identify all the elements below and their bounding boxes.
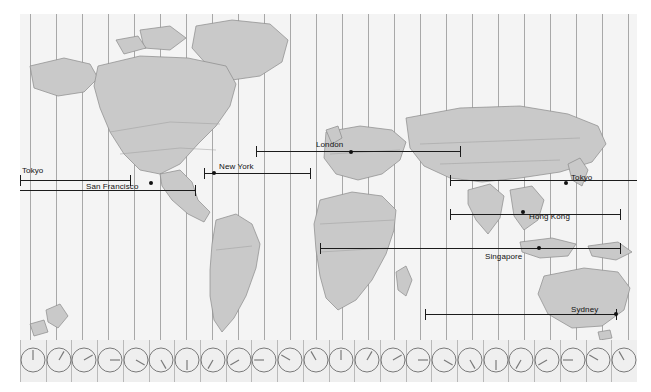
span-endpoint-tick	[450, 209, 451, 220]
hour-clock[interactable]	[20, 346, 47, 374]
span-endpoint-tick	[450, 175, 451, 186]
city-marker-dot[interactable]	[212, 171, 216, 175]
span-endpoint-tick	[310, 168, 311, 179]
hour-clock[interactable]	[610, 346, 637, 374]
span-endpoint-tick	[620, 243, 621, 254]
city-marker-dot[interactable]	[537, 246, 541, 250]
time-span-line	[320, 248, 620, 249]
city-label: Tokyo	[22, 166, 43, 175]
hour-clock[interactable]	[584, 346, 612, 374]
span-endpoint-tick	[620, 209, 621, 220]
hour-clock[interactable]	[533, 346, 561, 374]
hour-clock[interactable]	[147, 346, 175, 374]
span-endpoint-tick	[460, 146, 461, 157]
hour-clock[interactable]	[507, 346, 535, 374]
world-map[interactable]: TokyoSan FranciscoNew YorkLondonTokyoHon…	[20, 14, 637, 340]
hour-clock[interactable]	[482, 346, 510, 374]
time-span-line	[20, 180, 130, 181]
hour-clock[interactable]	[559, 346, 587, 374]
hour-clock[interactable]	[70, 346, 98, 374]
city-marker-dot[interactable]	[614, 312, 618, 316]
hour-clock[interactable]	[250, 346, 278, 374]
city-marker-dot[interactable]	[564, 181, 568, 185]
span-endpoint-tick	[195, 185, 196, 196]
hour-clock[interactable]	[122, 346, 150, 374]
timezone-map-screen: TokyoSan FranciscoNew YorkLondonTokyoHon…	[0, 0, 651, 392]
time-span-line	[450, 180, 637, 181]
hour-clock[interactable]	[327, 346, 355, 374]
city-marker-dot[interactable]	[521, 210, 525, 214]
city-marker-dot[interactable]	[149, 181, 153, 185]
hour-clock[interactable]	[225, 346, 253, 374]
hour-clock[interactable]	[173, 346, 201, 374]
hour-clock[interactable]	[379, 346, 407, 374]
span-endpoint-tick	[204, 168, 205, 179]
hour-clock[interactable]	[45, 346, 73, 374]
hour-clock[interactable]	[302, 346, 330, 374]
time-span-line	[256, 151, 460, 152]
span-endpoint-tick	[256, 146, 257, 157]
span-endpoint-tick	[425, 309, 426, 320]
city-label: Tokyo	[571, 173, 592, 182]
hour-clock[interactable]	[404, 346, 432, 374]
city-label: New York	[219, 162, 254, 171]
span-endpoint-tick	[20, 175, 21, 186]
hour-clock[interactable]	[430, 346, 458, 374]
span-endpoint-tick	[320, 243, 321, 254]
hour-clock[interactable]	[96, 346, 124, 374]
city-label: Sydney	[571, 305, 598, 314]
hour-clock[interactable]	[353, 346, 381, 374]
hour-clock[interactable]	[199, 346, 227, 374]
hour-clock-strip[interactable]	[20, 340, 637, 382]
hour-clock[interactable]	[276, 346, 304, 374]
time-span-line	[204, 173, 310, 174]
city-label: London	[316, 140, 343, 149]
city-marker-dot[interactable]	[349, 150, 353, 154]
landmass-layer	[20, 14, 637, 340]
city-label: Hong Kong	[529, 212, 570, 221]
hour-clock[interactable]	[456, 346, 484, 374]
city-label: San Francisco	[86, 182, 138, 191]
city-label: Singapore	[485, 252, 522, 261]
time-span-line	[425, 314, 616, 315]
